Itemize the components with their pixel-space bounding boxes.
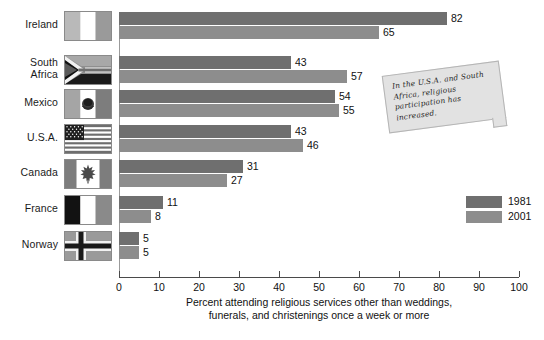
bar-2001 [119,246,139,259]
x-tick-label: 90 [464,281,494,293]
country-label-line-1: France [0,203,58,215]
bar-value-label: 43 [295,56,307,69]
country-label-south-africa: SouthAfrica [0,57,58,80]
flag-south-africa-icon [64,55,112,85]
country-label-line-1: Norway [0,239,58,251]
bar-value-label: 65 [383,26,395,39]
x-tick [319,271,320,277]
country-label-norway: Norway [0,239,58,251]
country-label-line-1: Mexico [0,97,58,109]
legend-label: 2001 [508,210,531,223]
country-label-canada: Canada [0,167,58,179]
country-label-line-1: Canada [0,167,58,179]
country-label-line-1: Ireland [0,19,58,31]
x-tick [479,271,480,277]
x-tick-label: 40 [264,281,294,293]
bar-value-label: 5 [143,232,149,245]
x-tick-label: 80 [424,281,454,293]
bar-value-label: 8 [155,210,161,223]
legend-swatch [466,211,502,223]
x-tick-label: 60 [344,281,374,293]
country-label-mexico: Mexico [0,97,58,109]
x-tick [519,271,520,277]
flag-mexico-icon [64,89,112,119]
flag-norway-icon [64,231,112,261]
bar-2001 [119,26,379,39]
flag-usa-icon [64,124,112,154]
legend-label: 1981 [508,195,531,208]
bar-value-label: 27 [231,174,243,187]
x-axis-title-line-2: funerals, and christenings once a week o… [119,309,519,322]
bar-value-label: 54 [339,90,351,103]
legend-item-2001: 2001 [466,211,540,224]
x-tick-label: 50 [304,281,334,293]
x-tick-label: 10 [144,281,174,293]
bar-1981 [119,56,291,69]
bar-2001 [119,139,303,152]
bar-value-label: 46 [307,139,319,152]
annotation-text: In the U.S.A. and South Africa, religiou… [392,69,497,124]
x-tick [199,271,200,277]
bar-value-label: 43 [295,125,307,138]
bar-1981 [119,90,335,103]
note-fold-corner [492,116,507,128]
bar-chart: Ireland8265SouthAfrica4357Mexico5455U.S.… [0,0,544,340]
country-label-line-1: South [0,57,58,69]
bar-value-label: 55 [343,104,355,117]
country-label-line-2: Africa [0,69,58,81]
bar-1981 [119,125,291,138]
x-axis-title-line-1: Percent attending religious services oth… [119,296,519,309]
bar-value-label: 57 [351,70,363,83]
x-tick-label: 0 [104,281,134,293]
annotation-sticky-note: In the U.S.A. and South Africa, religiou… [382,61,507,134]
bar-1981 [119,12,447,25]
bar-1981 [119,232,139,245]
flag-france-icon [64,195,112,225]
x-tick-label: 20 [184,281,214,293]
x-tick [439,271,440,277]
bar-value-label: 82 [451,12,463,25]
x-tick-label: 100 [504,281,534,293]
x-tick [159,271,160,277]
bar-1981 [119,196,163,209]
x-tick-label: 70 [384,281,414,293]
bar-2001 [119,210,151,223]
x-tick [239,271,240,277]
bar-value-label: 31 [247,160,259,173]
x-tick [119,271,120,277]
legend-item-1981: 1981 [466,196,540,209]
bar-2001 [119,104,339,117]
country-label-ireland: Ireland [0,19,58,31]
flag-ireland-icon [64,11,112,41]
x-axis-line [119,277,519,278]
country-label-line-1: U.S.A. [0,132,58,144]
bar-value-label: 5 [143,246,149,259]
x-tick [359,271,360,277]
country-label-u-s-a: U.S.A. [0,132,58,144]
country-label-france: France [0,203,58,215]
bar-2001 [119,174,227,187]
bar-1981 [119,160,243,173]
x-tick [279,271,280,277]
bar-value-label: 11 [167,196,178,209]
legend-swatch [466,196,502,208]
x-axis-title: Percent attending religious services oth… [119,296,519,321]
bar-2001 [119,70,347,83]
x-tick-label: 30 [224,281,254,293]
chart-legend: 19812001 [466,196,540,226]
x-tick [399,271,400,277]
flag-canada-icon [64,159,112,189]
